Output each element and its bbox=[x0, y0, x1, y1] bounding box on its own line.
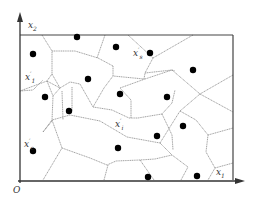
cell-label-xc-prime: x′c bbox=[24, 138, 34, 151]
cell-label-xs-prime: x′s bbox=[133, 47, 143, 60]
origin-label: O bbox=[13, 186, 20, 195]
sites bbox=[30, 34, 200, 180]
x-axis-arrowhead bbox=[235, 178, 245, 184]
cell-edges bbox=[20, 35, 233, 180]
y-axis-label: x2 bbox=[28, 21, 37, 32]
y-axis-arrowhead bbox=[17, 12, 23, 22]
frame bbox=[20, 35, 233, 180]
cell-label-xi-prime: x′i bbox=[115, 118, 123, 131]
x-axis-label: x1 bbox=[216, 168, 225, 179]
cell-label-x1-prime: x′1 bbox=[25, 71, 35, 84]
